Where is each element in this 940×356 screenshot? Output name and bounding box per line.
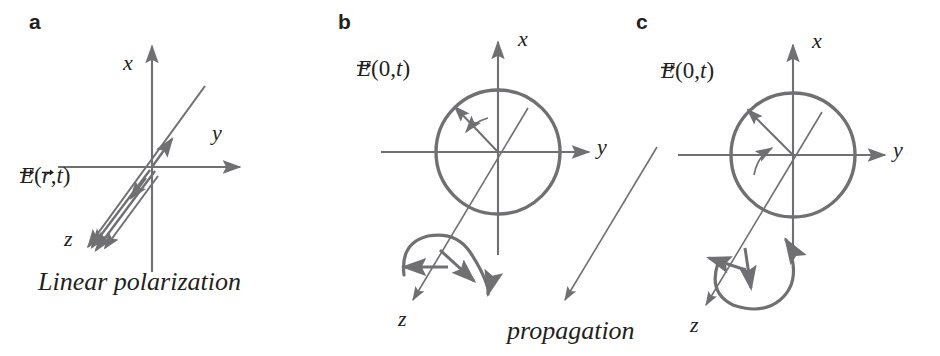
panel-c-helix-arrow-down	[745, 248, 751, 288]
field-arg-zero-b: 0	[379, 56, 391, 81]
panel-b-graphics	[381, 42, 589, 300]
panel-b-helix	[404, 235, 488, 285]
field-symbol-E-b: E	[357, 56, 371, 82]
paren-close-a: )	[63, 163, 71, 188]
panel-c-label-z: z	[690, 312, 699, 338]
panel-a-oscillation-arrow-down-1	[96, 171, 155, 250]
panel-letter-b: b	[338, 10, 351, 34]
paren-open-a: (	[34, 163, 42, 188]
panel-c-helix	[715, 258, 793, 309]
propagation-graphics	[565, 147, 657, 300]
panel-c-rotation-arrow	[754, 148, 772, 175]
panel-letter-c: c	[636, 10, 648, 34]
figure-canvas	[0, 0, 940, 356]
panel-b-axis-z	[413, 108, 528, 300]
paren-close-b: )	[402, 56, 410, 81]
panel-c-graphics	[678, 45, 885, 309]
paren-open-b: (	[371, 56, 379, 81]
panel-letter-a: a	[29, 10, 41, 34]
paren-close-c: )	[706, 58, 714, 83]
panel-b-helix-tail	[487, 285, 488, 294]
panel-a-label-z: z	[64, 226, 73, 252]
panel-b-label-y: y	[597, 134, 607, 160]
panel-a-oscillation-arrow-down-2	[92, 170, 150, 247]
panel-a-graphics	[58, 46, 240, 272]
panel-c-field-label: E(0,t)	[661, 58, 714, 84]
paren-open-c: (	[675, 58, 683, 83]
field-symbol-E-a: E	[20, 163, 34, 189]
polarization-figure: a b c E(r,t) x y z Linear polarization E…	[0, 0, 940, 356]
panel-c-label-x: x	[812, 28, 822, 54]
field-arg-zero-c: 0	[683, 58, 695, 83]
panel-a-label-y: y	[212, 120, 222, 146]
panel-c-axis-z	[706, 112, 822, 305]
panel-b-label-x: x	[518, 26, 528, 52]
propagation-arrow	[565, 147, 657, 300]
panel-b-label-z: z	[398, 306, 407, 332]
panel-c-label-y: y	[893, 137, 903, 163]
panel-a-caption: Linear polarization	[38, 267, 241, 297]
panel-b-field-label: E(0,t)	[357, 56, 410, 82]
propagation-label: propagation	[507, 316, 635, 346]
panel-a-oscillation-arrow-up	[152, 139, 172, 167]
panel-a-field-label: E(r,t)	[20, 163, 71, 189]
field-arg-r-a: r	[42, 163, 51, 189]
panel-c-helix-tail	[786, 240, 792, 258]
panel-a-label-x: x	[123, 50, 133, 76]
panel-b-field-vector	[455, 107, 498, 152]
field-symbol-E-c: E	[661, 58, 675, 84]
